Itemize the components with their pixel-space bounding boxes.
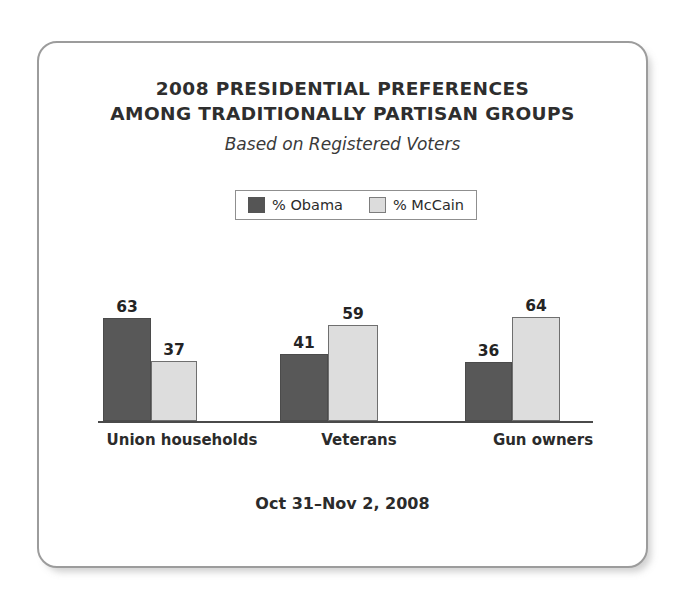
chart-category-labels: Union households Veterans Gun owners (98, 429, 593, 453)
bar-obama-veterans: 41 (280, 354, 328, 421)
chart-bar-groups: 63 37 41 59 36 64 (98, 43, 593, 421)
bar-mccain-union-households: 37 (151, 361, 197, 421)
category-label-veterans: Veterans (259, 429, 459, 451)
chart-figure-frame: 2008 PRESIDENTIAL PREFERENCES AMONG TRAD… (37, 41, 648, 568)
bar-mccain-veterans: 59 (328, 325, 378, 421)
bar-value-mccain-gun-owners: 64 (513, 298, 559, 314)
bar-obama-union-households: 63 (103, 318, 151, 421)
bar-group-union-households: 63 37 (103, 43, 261, 421)
bar-group-veterans: 41 59 (280, 43, 438, 421)
category-label-gun-owners: Gun owners (443, 429, 643, 451)
bar-value-mccain-union-households: 37 (152, 342, 196, 358)
bar-value-obama-gun-owners: 36 (466, 343, 511, 359)
chart-footer-date: Oct 31–Nov 2, 2008 (39, 494, 646, 513)
bar-mccain-gun-owners: 64 (512, 317, 560, 421)
bar-group-gun-owners: 36 64 (465, 43, 623, 421)
chart-baseline-axis (98, 421, 593, 423)
bar-value-mccain-veterans: 59 (329, 306, 377, 322)
category-label-union-households: Union households (82, 429, 282, 451)
bar-obama-gun-owners: 36 (465, 362, 512, 421)
bar-value-obama-veterans: 41 (281, 335, 327, 351)
bar-value-obama-union-households: 63 (104, 299, 150, 315)
chart-plot-area: 63 37 41 59 36 64 (98, 43, 593, 566)
